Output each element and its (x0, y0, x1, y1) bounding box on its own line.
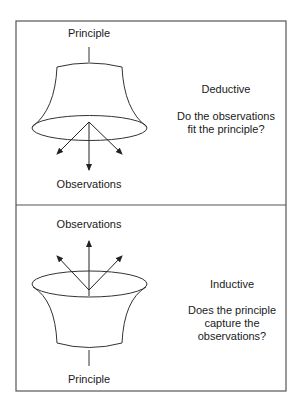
deductive-question-line1: Do the observations (166, 110, 286, 123)
inductive-question-line3: observations? (172, 330, 292, 343)
inductive-top-label: Observations (49, 218, 129, 231)
inductive-question-line2: capture the (172, 317, 292, 330)
deductive-title: Deductive (166, 83, 286, 96)
inductive-bottom-label: Principle (59, 373, 119, 386)
deductive-arrows (57, 122, 122, 170)
inductive-title: Inductive (172, 278, 292, 291)
inductive-question-line1: Does the principle (172, 304, 292, 317)
deductive-top-label: Principle (59, 27, 119, 40)
deductive-bottom-label: Observations (49, 178, 129, 191)
diagram-canvas (0, 0, 302, 405)
inductive-arrows (57, 241, 122, 296)
deductive-question-line2: fit the principle? (166, 123, 286, 136)
